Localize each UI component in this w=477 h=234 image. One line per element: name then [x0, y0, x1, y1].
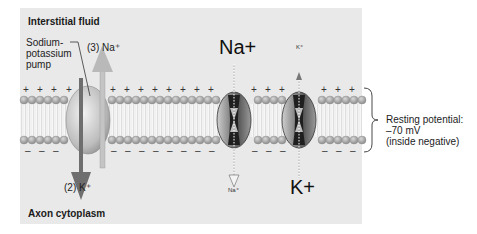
plus-charge: +	[335, 84, 341, 95]
plus-charge: +	[166, 84, 172, 95]
minus-charge: –	[39, 145, 45, 156]
minus-charge: –	[336, 145, 342, 156]
plus-charge: +	[124, 84, 130, 95]
plus-charge: +	[110, 84, 116, 95]
minus-charge: –	[53, 145, 59, 156]
minus-charge: –	[350, 145, 356, 156]
pump-label-line2: potassium	[26, 48, 72, 59]
resting-potential-line1: Resting potential:	[386, 114, 463, 125]
plus-charge: +	[194, 84, 200, 95]
plus-charge: +	[180, 84, 186, 95]
axon-cytoplasm-label: Axon cytoplasm	[28, 208, 105, 219]
plus-charge: +	[152, 84, 158, 95]
plus-charge: +	[138, 84, 144, 95]
minus-charge: –	[280, 145, 286, 156]
plus-charge: +	[321, 84, 327, 95]
plus-charge: +	[265, 84, 271, 95]
plus-charge: +	[66, 84, 72, 95]
resting-potential-bracket	[364, 88, 378, 152]
plus-charge: +	[251, 84, 257, 95]
minus-charge: –	[209, 145, 215, 156]
k-channel-arrow-icon	[296, 72, 302, 80]
pump-label: Sodium- potassium pump	[26, 37, 72, 70]
minus-charge: –	[25, 145, 31, 156]
k-channel-bottom-label: K+	[290, 176, 315, 199]
plus-charge: +	[208, 84, 214, 95]
interstitial-fluid-label: Interstitial fluid	[28, 16, 100, 27]
k-channel-top-label: K⁺	[296, 43, 303, 50]
minus-charge: –	[195, 145, 201, 156]
pump-na-label: (3) Na⁺	[87, 42, 120, 53]
minus-charge: –	[125, 145, 131, 156]
resting-potential-note: (inside negative)	[386, 136, 463, 147]
plus-charge: +	[23, 84, 29, 95]
na-channel	[217, 64, 251, 178]
pump-k-label: (2) K⁺	[64, 182, 91, 193]
minus-charge: –	[252, 145, 258, 156]
minus-charge: –	[322, 145, 328, 156]
minus-charge: –	[181, 145, 187, 156]
pump-label-line1: Sodium-	[26, 37, 72, 48]
resting-potential-label: Resting potential: –70 mV (inside negati…	[386, 114, 463, 147]
resting-potential-value: –70 mV	[386, 125, 463, 136]
na-channel-bottom-label: Na⁺	[228, 186, 239, 193]
minus-charge: –	[266, 145, 272, 156]
pump-label-line3: pump	[26, 59, 72, 70]
plus-charge: +	[349, 84, 355, 95]
minus-charge: –	[167, 145, 173, 156]
plus-charge: +	[37, 84, 43, 95]
minus-charge: –	[139, 145, 145, 156]
minus-charge: –	[111, 145, 117, 156]
k-channel	[282, 80, 316, 178]
minus-charge: –	[153, 145, 159, 156]
na-channel-top-label: Na+	[219, 36, 256, 59]
plus-charge: +	[51, 84, 57, 95]
plus-charge: +	[279, 84, 285, 95]
